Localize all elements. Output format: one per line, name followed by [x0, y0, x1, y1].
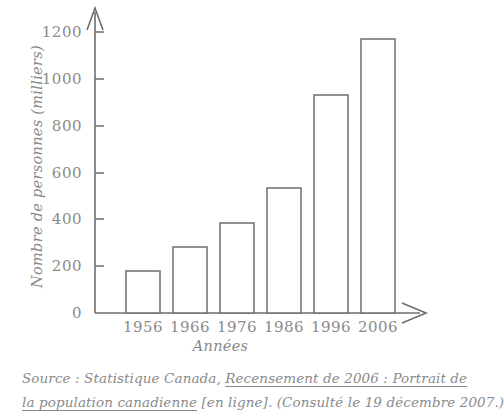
y-axis-title: Nombre de personnes (milliers): [29, 58, 45, 288]
caption-line-1: Source : Statistique Canada, Recensement…: [22, 366, 432, 390]
y-axis-ticks: [95, 32, 104, 266]
caption-line-2: la population canadienne [en ligne]. (Co…: [22, 390, 432, 414]
bar-1976: [220, 223, 254, 313]
bar-series: [126, 39, 395, 313]
y-tick-label-0: 0: [22, 304, 82, 322]
bar-1966: [173, 247, 207, 313]
x-tick-label-2006: 2006: [348, 318, 408, 336]
bar-chart-figure: 0 200 400 600 800 1000 1200 1956 1966 19…: [0, 0, 441, 360]
bar-1996: [314, 95, 348, 313]
y-tick-label-1000: 1000: [14, 70, 82, 88]
source-caption: Source : Statistique Canada, Recensement…: [22, 366, 432, 414]
x-axis-title: Années: [0, 338, 441, 354]
bar-1956: [126, 271, 160, 313]
caption-access-note: [en ligne]. (Consulté le 19 décembre 200…: [197, 394, 504, 410]
bar-1986: [267, 188, 301, 313]
bar-2006: [361, 39, 395, 313]
caption-title-part-2: la population canadienne: [22, 394, 197, 410]
y-tick-label-1200: 1200: [14, 23, 82, 41]
y-axis: [87, 8, 103, 313]
caption-source-prefix: Source : Statistique Canada,: [22, 370, 225, 386]
caption-title-part-1: Recensement de 2006 : Portrait de: [225, 370, 467, 386]
